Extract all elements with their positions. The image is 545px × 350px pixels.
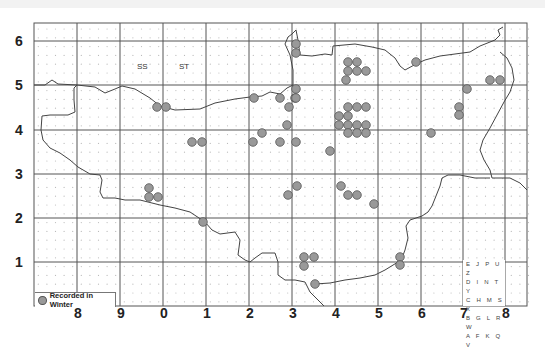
tetrad-key-row: B G L R W (466, 314, 505, 332)
record-dot (285, 103, 294, 112)
record-dot (292, 94, 301, 103)
record-dot (258, 129, 267, 138)
x-label-3: 3 (283, 305, 303, 321)
x-label-6: 6 (412, 305, 432, 321)
y-label-5: 5 (10, 77, 28, 93)
record-dot (486, 76, 495, 85)
record-dot (335, 112, 344, 121)
record-dot (396, 253, 405, 262)
record-dot (300, 262, 309, 271)
record-dot (198, 138, 207, 147)
record-dot (145, 193, 154, 202)
record-dot (276, 138, 285, 147)
tetrad-key-row: D I N T Y (466, 278, 505, 296)
legend: Recorded in Winter (35, 292, 116, 307)
x-label-4: 4 (326, 305, 346, 321)
record-dot (353, 129, 362, 138)
record-dot (463, 85, 472, 94)
record-dot (353, 58, 362, 67)
record-dot (283, 121, 292, 130)
record-dot (162, 103, 171, 112)
tetrad-key: E J P U Z D I N T Y C H M S X B G L R W … (463, 260, 505, 306)
record-dot (199, 218, 208, 227)
x-label-1: 1 (197, 305, 217, 321)
record-dot (427, 129, 436, 138)
record-dot (344, 129, 353, 138)
y-label-1: 1 (10, 254, 28, 270)
tetrad-key-row: C H M S X (466, 296, 505, 314)
record-dot (145, 184, 154, 193)
record-dot (353, 103, 362, 112)
x-label-2: 2 (240, 305, 260, 321)
record-dot (412, 58, 421, 67)
record-dot (310, 253, 319, 262)
record-dot (344, 191, 353, 200)
record-dot (342, 76, 351, 85)
y-label-4: 4 (10, 122, 28, 138)
tetrad-key-row: E J P U Z (466, 260, 505, 278)
legend-label: Recorded in Winter (50, 291, 115, 309)
record-dot (249, 138, 258, 147)
grid-square-ss: SS (137, 62, 148, 71)
record-dot (292, 85, 301, 94)
record-dot (311, 280, 320, 289)
x-label-0: 0 (154, 305, 174, 321)
record-dot (293, 182, 302, 191)
x-label-5: 5 (369, 305, 389, 321)
record-dot (337, 182, 346, 191)
record-dot (292, 49, 301, 58)
record-dot (276, 94, 285, 103)
record-dot (362, 103, 371, 112)
record-dot (250, 94, 259, 103)
record-dot (344, 112, 353, 121)
record-dot (353, 67, 362, 76)
record-dot (362, 129, 371, 138)
record-dot (188, 138, 197, 147)
grid-square-st: ST (179, 62, 189, 71)
record-dot (344, 121, 353, 130)
record-dot (353, 121, 362, 130)
tetrad-key-row: A F K Q V (466, 332, 505, 350)
y-label-2: 2 (10, 210, 28, 226)
record-dot (353, 191, 362, 200)
grid-lines (34, 23, 527, 306)
record-dot (326, 147, 335, 156)
record-dot (362, 121, 371, 130)
record-dot (335, 121, 344, 130)
y-label-3: 3 (10, 166, 28, 182)
record-dot (153, 103, 162, 112)
record-dot (362, 67, 371, 76)
record-dot (344, 67, 353, 76)
record-dot (396, 261, 405, 270)
record-dot (344, 103, 353, 112)
record-dot (292, 40, 301, 49)
county-boundary (34, 27, 527, 306)
y-label-6: 6 (10, 33, 28, 49)
record-dot (455, 103, 464, 112)
winter-records (145, 40, 505, 289)
record-dot (154, 193, 163, 202)
legend-dot-icon (38, 296, 47, 305)
record-dot (284, 191, 293, 200)
record-dot (292, 138, 301, 147)
record-dot (455, 111, 464, 120)
record-dot (344, 58, 353, 67)
tetrad-grid-dots (38, 28, 529, 302)
record-dot (370, 200, 379, 209)
record-dot (496, 76, 505, 85)
record-dot (300, 253, 309, 262)
